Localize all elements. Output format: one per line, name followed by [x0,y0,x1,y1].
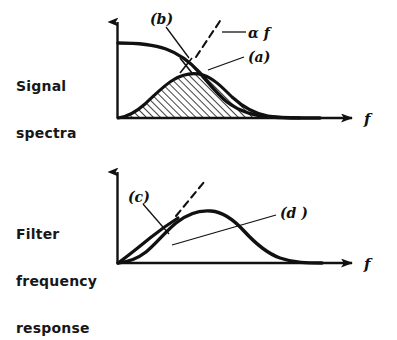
callout-label-a: (a) [248,49,270,65]
dashed-alpha-f-line [196,18,222,57]
row-label-line: frequency [16,274,97,290]
leader-line-d [172,215,276,245]
curve-c-steep-rise [118,218,178,263]
leader-line-c [143,204,169,234]
leader-line-a [208,57,244,70]
row-label-filter-frequency-response: Filter frequency response [16,196,97,340]
panel-filter-frequency-response: f (c) (d ) [118,172,374,273]
callout-label-d: (d ) [280,205,308,221]
row-label-line: Filter [16,227,97,243]
row-label-line: response [16,321,97,337]
row-label-signal-spectra: Signal spectra [16,48,77,173]
row-label-line: spectra [16,126,77,142]
callout-label-c: (c) [128,189,150,205]
x-axis-label-top: f [363,110,373,128]
panel-signal-spectra: f (b) α f (a) [118,11,374,128]
callout-label-b: (b) [150,11,173,27]
row-label-line: Signal [16,79,77,95]
callout-label-alpha-f: α f [248,25,273,41]
spectrum-hatched-area [118,74,300,118]
x-axis-label-bottom: f [363,255,373,273]
